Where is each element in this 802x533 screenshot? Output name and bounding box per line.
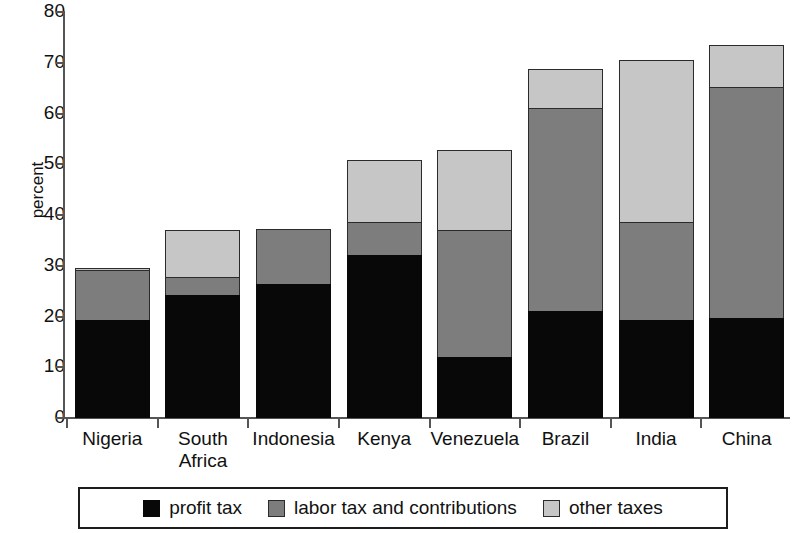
bar-segment-profit	[165, 295, 240, 418]
bar-segment-labor	[619, 222, 694, 320]
bar-segment-labor	[165, 277, 240, 295]
bar-segment-other	[619, 60, 694, 222]
chart-legend: profit taxlabor tax and contributionsoth…	[78, 487, 728, 529]
x-axis-label: India	[611, 428, 702, 450]
y-tick: 0	[0, 417, 65, 419]
bar-segment-other	[528, 69, 603, 108]
bar-south-africa[interactable]	[165, 12, 240, 418]
x-axis-label: Indonesia	[248, 428, 339, 450]
x-axis-label: Venezuela	[430, 428, 521, 450]
bar-segment-profit	[709, 318, 784, 418]
x-axis-label: China	[701, 428, 792, 450]
x-axis-label: South Africa	[158, 428, 249, 472]
bar-segment-profit	[347, 255, 422, 418]
bar-kenya[interactable]	[347, 12, 422, 418]
y-tick: 70	[0, 62, 65, 64]
x-axis-label: Kenya	[339, 428, 430, 450]
legend-item[interactable]: profit tax	[143, 497, 242, 519]
bar-segment-other	[709, 45, 784, 87]
bar-venezuela[interactable]	[437, 12, 512, 418]
y-tick: 80	[0, 11, 65, 13]
bar-segment-other	[437, 150, 512, 230]
x-tick-mark	[429, 419, 431, 428]
bar-segment-profit	[528, 311, 603, 418]
bar-segment-labor	[528, 108, 603, 311]
bar-nigeria[interactable]	[75, 12, 150, 418]
legend-item[interactable]: labor tax and contributions	[268, 497, 517, 519]
x-tick-mark	[247, 419, 249, 428]
y-tick: 30	[0, 265, 65, 267]
bar-india[interactable]	[619, 12, 694, 418]
bar-segment-other	[75, 268, 150, 271]
bar-segment-labor	[347, 222, 422, 255]
y-tick: 60	[0, 113, 65, 115]
bar-segment-labor	[437, 230, 512, 357]
x-axis-label: Brazil	[520, 428, 611, 450]
bar-segment-profit	[619, 320, 694, 418]
legend-label: labor tax and contributions	[294, 497, 517, 519]
bar-segment-profit	[256, 284, 331, 418]
legend-swatch-profit	[143, 500, 160, 517]
y-tick: 50	[0, 163, 65, 165]
y-tick: 40	[0, 214, 65, 216]
x-tick-mark	[157, 419, 159, 428]
legend-swatch-labor	[268, 500, 285, 517]
stacked-bar-chart: percent 01020304050607080 NigeriaSouth A…	[0, 0, 802, 533]
bar-brazil[interactable]	[528, 12, 603, 418]
legend-label: other taxes	[569, 497, 663, 519]
bar-segment-profit	[437, 357, 512, 418]
x-tick-mark	[338, 419, 340, 428]
bar-segment-profit	[75, 320, 150, 418]
bar-segment-other	[347, 160, 422, 222]
x-tick-mark	[66, 419, 68, 428]
bar-indonesia[interactable]	[256, 12, 331, 418]
bar-segment-other	[165, 230, 240, 277]
y-axis-title: percent	[28, 120, 48, 260]
bar-china[interactable]	[709, 12, 784, 418]
plot-area	[65, 12, 790, 418]
legend-item[interactable]: other taxes	[543, 497, 663, 519]
legend-label: profit tax	[169, 497, 242, 519]
x-tick-mark	[519, 419, 521, 428]
x-tick-mark	[610, 419, 612, 428]
x-tick-mark	[700, 419, 702, 428]
x-axis-label: Nigeria	[67, 428, 158, 450]
bar-segment-labor	[709, 87, 784, 318]
bar-segment-labor	[256, 229, 331, 284]
bar-segment-labor	[75, 270, 150, 320]
y-tick: 20	[0, 316, 65, 318]
y-tick: 10	[0, 366, 65, 368]
legend-swatch-other	[543, 500, 560, 517]
